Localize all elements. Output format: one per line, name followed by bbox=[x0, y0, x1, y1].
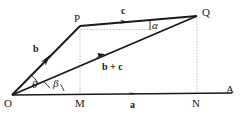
point-label-M: M bbox=[75, 98, 85, 109]
vector-b-plus-c-line bbox=[12, 16, 197, 95]
point-label-Q: Q bbox=[202, 7, 210, 18]
point-label-O: O bbox=[4, 98, 12, 109]
vector-label-b-plus-c: b + c bbox=[102, 62, 123, 72]
angle-label-beta: β bbox=[53, 78, 58, 89]
angle-arc-beta bbox=[61, 84, 65, 91]
angle-label-theta: θ bbox=[32, 79, 37, 90]
point-label-P: P bbox=[74, 13, 80, 24]
point-label-N: N bbox=[192, 98, 200, 109]
vector-label-a: a bbox=[130, 100, 135, 110]
vector-b-line bbox=[12, 26, 80, 95]
vector-diagram-figure: O M N A P Q a b c b + c θ β α bbox=[0, 0, 246, 119]
construction-guides bbox=[80, 18, 197, 94]
point-label-A: A bbox=[226, 84, 234, 95]
vector-label-b: b bbox=[33, 44, 39, 54]
vector-label-c: c bbox=[121, 6, 125, 16]
vector-a-line bbox=[12, 93, 232, 95]
angle-arc-beta-inner bbox=[45, 83, 51, 89]
angle-label-alpha: α bbox=[152, 20, 158, 31]
